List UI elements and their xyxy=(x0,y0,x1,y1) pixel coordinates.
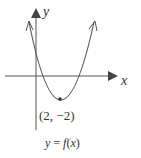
vertex-point xyxy=(58,97,62,101)
x-axis-label: x xyxy=(120,73,128,88)
caption-equals: = xyxy=(50,136,63,150)
parabola-curve xyxy=(29,22,94,100)
caption-paren-close: ) xyxy=(76,136,80,150)
y-axis-label: y xyxy=(41,4,50,19)
x-axis-arrow-icon xyxy=(108,71,118,81)
parabola-graph: y x (2, −2) y = f(x) xyxy=(0,0,141,158)
vertex-label: (2, −2) xyxy=(39,108,75,123)
y-axis-arrow-icon xyxy=(31,8,41,18)
function-caption: y = f(x) xyxy=(44,136,80,150)
